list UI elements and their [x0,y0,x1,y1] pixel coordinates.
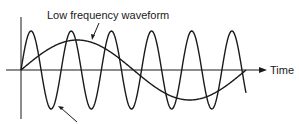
time-axis-arrowhead-icon [259,67,267,73]
time-axis-label: Time [270,64,294,76]
low-frequency-label: Low frequency waveform [47,9,169,21]
high-frequency-pointer [61,108,77,122]
low-frequency-pointer-arrowhead-icon [91,34,95,40]
waveform-diagram: Time Low frequency waveform [0,0,299,124]
